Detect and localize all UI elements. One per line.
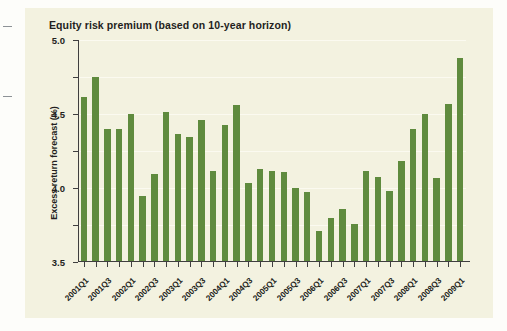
bar [151, 174, 157, 261]
x-axis-tick [307, 262, 308, 267]
plot-inner [78, 40, 466, 262]
bar [116, 129, 122, 261]
bar [233, 105, 239, 261]
bar [304, 192, 310, 261]
x-axis-tick [154, 262, 155, 267]
gridline [78, 40, 466, 41]
x-axis-tick [272, 262, 273, 267]
x-axis-tick-label: 2001Q1 [63, 276, 90, 303]
y-axis-tick: 5.0 [73, 40, 78, 41]
bar [328, 218, 334, 261]
y-axis-tick-label: 4.5 [52, 109, 65, 120]
bar [222, 125, 228, 261]
bar [257, 169, 263, 262]
x-axis-tick [131, 262, 132, 267]
x-axis-tick-label: 2003Q1 [157, 276, 184, 303]
x-axis-tick [413, 262, 414, 267]
y-axis-tick-label: 3.5 [52, 257, 65, 268]
bar [81, 97, 87, 261]
x-axis-tick-label: 2007Q3 [369, 276, 396, 303]
x-axis-tick [437, 262, 438, 267]
x-axis-tick [460, 262, 461, 267]
x-axis-tick [378, 262, 379, 267]
x-axis-tick [390, 262, 391, 267]
x-axis-line [78, 261, 470, 262]
y-axis-tick: 4.5 [73, 77, 78, 78]
x-axis-tick [354, 262, 355, 267]
x-axis-tick-label: 2008Q3 [416, 276, 443, 303]
x-axis-tick [260, 262, 261, 267]
x-axis-tick [296, 262, 297, 267]
x-axis-tick [401, 262, 402, 267]
bar [128, 114, 134, 261]
chart-panel: Equity risk premium (based on 10-year ho… [25, 8, 493, 318]
x-axis-tick-label: 2007Q1 [345, 276, 372, 303]
x-axis-tick [284, 262, 285, 267]
x-axis-tick-label: 2008Q1 [392, 276, 419, 303]
bar [163, 112, 169, 261]
x-axis-tick [366, 262, 367, 267]
bar [175, 134, 181, 261]
x-axis-tick-label: 2004Q1 [204, 276, 231, 303]
x-axis-tick [84, 262, 85, 267]
bar [351, 224, 357, 261]
plot-area: 2.02.53.03.54.04.55.02001Q12001Q32002Q12… [78, 40, 466, 262]
x-axis-tick [190, 262, 191, 267]
bar [386, 191, 392, 261]
bar [445, 104, 451, 261]
y-axis-tick: 2.5 [73, 225, 78, 226]
bar [410, 129, 416, 261]
bar [363, 171, 369, 261]
bar [269, 171, 275, 261]
y-axis-line [78, 40, 79, 262]
x-axis-tick [96, 262, 97, 267]
x-axis-tick-label: 2006Q1 [298, 276, 325, 303]
x-axis-tick [331, 262, 332, 267]
x-axis-tick [237, 262, 238, 267]
x-axis-tick-label: 2003Q3 [181, 276, 208, 303]
x-axis-tick [425, 262, 426, 267]
x-axis-tick [213, 262, 214, 267]
bar [422, 114, 428, 261]
x-axis-tick [143, 262, 144, 267]
crop-mark-top [3, 26, 12, 27]
x-axis-tick-label: 2005Q3 [275, 276, 302, 303]
y-axis-tick-label: 4.0 [52, 183, 65, 194]
bar [292, 188, 298, 261]
bar [433, 178, 439, 261]
y-axis-tick: 3.5 [73, 151, 78, 152]
bar [245, 183, 251, 261]
crop-mark-bottom [3, 96, 12, 97]
x-axis-tick-label: 2006Q3 [322, 276, 349, 303]
x-axis-tick [248, 262, 249, 267]
gridline [78, 114, 466, 115]
bar [210, 171, 216, 261]
x-axis-tick [166, 262, 167, 267]
x-axis-tick [178, 262, 179, 267]
bar [457, 58, 463, 262]
gridline [78, 151, 466, 152]
x-axis-tick-label: 2009Q1 [440, 276, 467, 303]
bar [104, 129, 110, 261]
bar [316, 231, 322, 261]
x-axis-tick [448, 262, 449, 267]
x-axis-tick-label: 2002Q3 [134, 276, 161, 303]
x-axis-tick [201, 262, 202, 267]
x-axis-tick [119, 262, 120, 267]
x-axis-tick-label: 2001Q3 [87, 276, 114, 303]
bar [281, 172, 287, 261]
x-axis-tick [319, 262, 320, 267]
page-background: Equity risk premium (based on 10-year ho… [0, 0, 507, 331]
y-axis-tick: 4.0 [73, 114, 78, 115]
y-axis-tick-label: 5.0 [52, 35, 65, 46]
chart-title: Equity risk premium (based on 10-year ho… [49, 19, 291, 31]
y-axis-tick: 3.0 [73, 188, 78, 189]
y-axis-tick: 2.0 [73, 262, 78, 263]
x-axis-tick [343, 262, 344, 267]
bar [186, 137, 192, 261]
x-axis-tick-label: 2004Q3 [228, 276, 255, 303]
bar [375, 177, 381, 261]
x-axis-tick-label: 2002Q1 [110, 276, 137, 303]
x-axis-tick-label: 2005Q1 [251, 276, 278, 303]
bar [339, 209, 345, 261]
